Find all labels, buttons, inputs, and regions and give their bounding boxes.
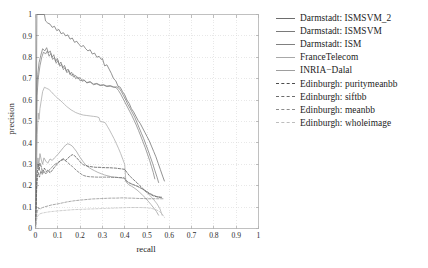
tick-labels: 00.10.20.30.40.50.60.70.80.9100.10.20.30… <box>23 10 261 240</box>
legend-item-label: Darmstadt: ISMSVM <box>300 26 382 37</box>
y-tick-label: 0.5 <box>23 117 33 126</box>
legend-item[interactable]: Edinburgh: puritymeanbb <box>276 77 428 90</box>
legend-item-label: Darmstadt: ISMSVM_2 <box>300 13 391 24</box>
x-tick-label: 1 <box>257 231 261 240</box>
x-tick-label: 0.4 <box>120 231 130 240</box>
legend-item-label: FranceTelecom <box>300 52 358 63</box>
legend-item[interactable]: Edinburgh: siftbb <box>276 91 428 104</box>
y-tick-label: 0 <box>28 224 32 233</box>
x-tick-label: 0.1 <box>53 231 63 240</box>
y-tick-label: 0.9 <box>23 32 33 41</box>
y-tick-label: 0.2 <box>23 181 33 190</box>
series-line <box>36 198 164 229</box>
legend-line-swatch <box>276 40 295 50</box>
chart-legend: Darmstadt: ISMSVM_2Darmstadt: ISMSVMDarm… <box>276 12 428 130</box>
x-tick-label: 0 <box>34 231 38 240</box>
legend-item-label: INRIA−Dalal <box>300 65 352 76</box>
y-tick-label: 0.8 <box>23 53 33 62</box>
legend-line-swatch <box>276 27 295 37</box>
x-tick-label: 0.6 <box>165 231 175 240</box>
legend-line-swatch <box>276 14 295 24</box>
y-tick-label: 0.7 <box>23 74 33 83</box>
y-axis-title: precision <box>6 103 16 135</box>
legend-item-label: Edinburgh: wholeimage <box>300 118 391 129</box>
precision-recall-figure: 00.10.20.30.40.50.60.70.80.9100.10.20.30… <box>0 0 428 268</box>
legend-item-label: Edinburgh: siftbb <box>300 92 367 103</box>
x-axis-title: recall <box>136 244 156 254</box>
legend-item-label: Edinburgh: puritymeanbb <box>300 79 398 90</box>
x-tick-label: 0.2 <box>75 231 85 240</box>
series-line <box>36 155 163 229</box>
series-line <box>36 48 159 229</box>
legend-item[interactable]: Darmstadt: ISM <box>276 38 428 51</box>
x-tick-label: 0.8 <box>209 231 219 240</box>
legend-item[interactable]: Edinburgh: wholeimage <box>276 117 428 130</box>
y-tick-label: 0.3 <box>23 160 33 169</box>
x-tick-label: 0.3 <box>98 231 108 240</box>
series-line <box>36 51 155 229</box>
grid-lines <box>36 15 259 229</box>
series-line <box>36 208 165 229</box>
legend-line-swatch <box>276 79 295 89</box>
legend-line-swatch <box>276 118 295 128</box>
x-tick-label: 0.5 <box>142 231 152 240</box>
legend-line-swatch <box>276 92 295 102</box>
legend-line-swatch <box>276 53 295 63</box>
legend-item-label: Edinburgh: meanbb <box>300 105 375 116</box>
legend-line-swatch <box>276 105 295 115</box>
legend-item[interactable]: Darmstadt: ISMSVM_2 <box>276 12 428 25</box>
legend-item-label: Darmstadt: ISM <box>300 39 361 50</box>
y-tick-label: 0.6 <box>23 96 33 105</box>
y-tick-label: 1 <box>28 10 32 19</box>
legend-item[interactable]: Edinburgh: meanbb <box>276 104 428 117</box>
y-tick-label: 0.4 <box>23 139 33 148</box>
x-tick-label: 0.9 <box>231 231 241 240</box>
y-tick-label: 0.1 <box>23 203 33 212</box>
legend-item[interactable]: INRIA−Dalal <box>276 64 428 77</box>
legend-line-swatch <box>276 66 295 76</box>
legend-item[interactable]: FranceTelecom <box>276 51 428 64</box>
legend-item[interactable]: Darmstadt: ISMSVM <box>276 25 428 38</box>
x-tick-label: 0.7 <box>187 231 197 240</box>
